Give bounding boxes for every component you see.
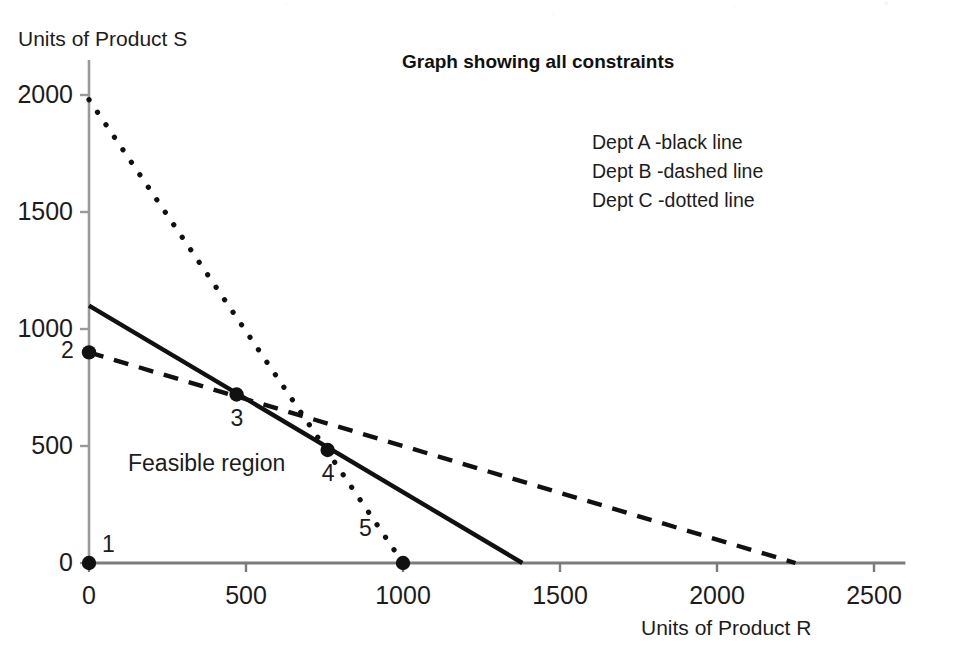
plot-area <box>0 0 953 659</box>
vertex-point <box>82 345 96 359</box>
vertex-point <box>82 556 96 570</box>
series-layer <box>89 100 796 563</box>
vertex-point <box>396 556 410 570</box>
axes-layer <box>80 60 905 572</box>
constraint-line-dept-a--black-line <box>89 306 522 563</box>
vertex-point <box>320 443 334 457</box>
constraints-graph: Units of Product S Graph showing all con… <box>0 0 953 659</box>
constraint-line-dept-b--dashed-line <box>89 352 796 563</box>
vertex-point <box>229 387 243 401</box>
vertex-points-layer <box>82 345 410 570</box>
